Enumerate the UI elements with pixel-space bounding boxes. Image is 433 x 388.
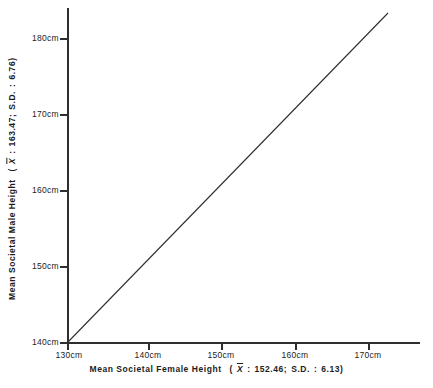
chart-figure: 140cm 150cm 160cm 170cm 180cm 130cm 140c… (0, 0, 433, 388)
regression-line (68, 13, 388, 342)
x-tick-label-140: 140cm (134, 351, 161, 360)
x-axis-mean-symbol: X (237, 364, 243, 374)
series-canvas (0, 0, 433, 388)
x-axis-sd-value: 6.13) (321, 364, 343, 374)
x-tick-label-150: 150cm (207, 351, 234, 360)
y-tick-label-140: 140cm (32, 338, 59, 347)
y-axis-mean-value: 163.47; (7, 114, 17, 147)
x-tick-label-130: 130cm (55, 351, 82, 360)
y-axis-sd-sep: : (7, 84, 17, 87)
x-axis-open-paren: ( (230, 364, 233, 374)
x-axis-sd-sep: : (314, 364, 317, 374)
x-tick-label-170: 170cm (354, 351, 381, 360)
y-axis-mean-sep: : (7, 150, 17, 153)
y-axis-line (67, 8, 69, 344)
y-tick-label-170: 170cm (32, 110, 59, 119)
x-axis-mean-value: 152.46; (255, 364, 288, 374)
y-tick-150 (60, 266, 68, 268)
x-axis-mean-sep: : (247, 364, 250, 374)
x-axis-title-name: Mean Societal Female Height (90, 364, 222, 374)
y-axis-sd-value: 6.76) (7, 57, 17, 79)
plot-area: 140cm 150cm 160cm 170cm 180cm 130cm 140c… (0, 0, 433, 388)
y-tick-170 (60, 114, 68, 116)
x-axis-sd-label: S.D. (291, 364, 310, 374)
y-tick-180 (60, 38, 68, 40)
y-tick-label-160: 160cm (32, 186, 59, 195)
x-axis-title: Mean Societal Female Height(X:152.46;S.D… (0, 365, 433, 374)
y-tick-160 (60, 190, 68, 192)
y-axis-mean-symbol: X (7, 158, 17, 164)
x-tick-label-160: 160cm (281, 351, 308, 360)
y-axis-title: Mean Societal Male Height(X:163.47;S.D.:… (8, 9, 17, 349)
y-axis-sd-label: S.D. (7, 91, 17, 110)
y-tick-label-150: 150cm (32, 262, 59, 271)
y-axis-open-paren: ( (7, 168, 17, 171)
y-axis-title-name: Mean Societal Male Height (7, 179, 17, 300)
y-tick-label-180: 180cm (32, 34, 59, 43)
